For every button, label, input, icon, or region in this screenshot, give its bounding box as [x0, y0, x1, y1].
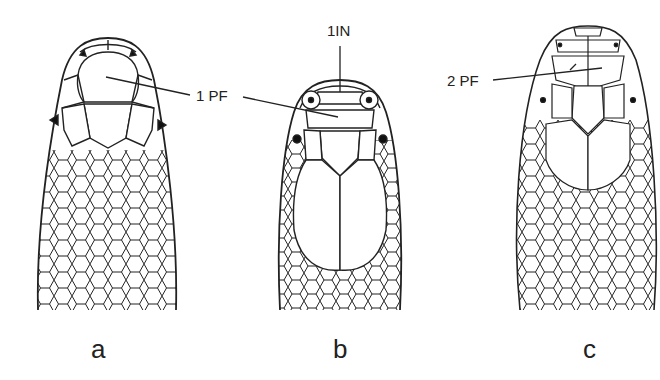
- head-b: [270, 80, 410, 320]
- panel-label-a: a: [91, 334, 105, 365]
- figure-drawing: [0, 0, 660, 380]
- callout-1pf-a: 1 PF: [196, 87, 228, 104]
- callout-1in: 1IN: [327, 22, 350, 39]
- head-a: [30, 38, 190, 320]
- panel-label-b: b: [333, 334, 347, 365]
- callout-2pf: 2 PF: [447, 72, 479, 89]
- panel-label-c: c: [583, 334, 596, 365]
